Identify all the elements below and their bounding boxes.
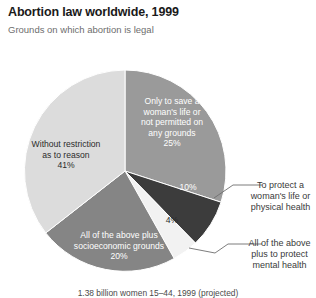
slice-label-only-to-save-life: Only to save a woman's life or not permi… [128, 96, 216, 149]
slice-percent-physical-health: 10% [173, 182, 203, 193]
slice-percent-socioeconomic: 20% [110, 251, 127, 261]
slice-percent-without-restriction: 41% [57, 160, 74, 170]
chart-footnote: 1.38 billion women 15–44, 1999 (projecte… [0, 288, 316, 298]
callout-mental-health: All of the above plus to protect mental … [243, 238, 316, 271]
slice-label-socioeconomic: All of the above plus socioeconomic grou… [62, 230, 176, 262]
callout-physical-health: To protect a woman's life or physical he… [245, 180, 316, 213]
pie-chart-figure: Abortion law worldwide, 1999 Grounds on … [0, 0, 316, 298]
slice-label-without-restriction: Without restriction as to reason41% [14, 139, 118, 171]
slice-percent-only-to-save-life: 25% [163, 138, 180, 148]
slice-label-without-restriction-text: Without restriction as to reason [32, 139, 101, 160]
slice-percent-mental-health: 4% [159, 215, 185, 226]
slice-label-only-to-save-life-text: Only to save a woman's life or not permi… [141, 96, 203, 138]
slice-label-socioeconomic-text: All of the above plus socioeconomic grou… [74, 230, 164, 251]
